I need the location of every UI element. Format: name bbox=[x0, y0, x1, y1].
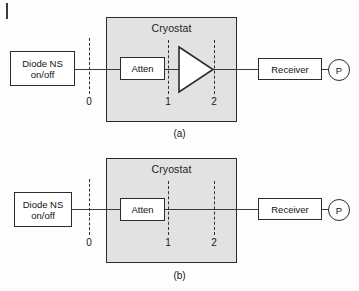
noise-source-line2-b: on/off bbox=[31, 210, 55, 221]
reference-plane-1-line-b bbox=[168, 181, 169, 235]
reference-plane-0-label-a: 0 bbox=[82, 96, 96, 107]
receiver-label-b: Receiver bbox=[271, 204, 309, 215]
power-meter-label-a: P bbox=[336, 65, 342, 76]
attenuator-label-a: Atten bbox=[131, 63, 153, 74]
reference-plane-1-label-b: 1 bbox=[161, 237, 175, 248]
reference-plane-0-line-a bbox=[89, 38, 90, 94]
reference-plane-1-line-a bbox=[168, 40, 169, 94]
attenuator-box-b[interactable]: Atten bbox=[120, 198, 165, 221]
figure-caption-b: (b) bbox=[0, 270, 359, 281]
receiver-label-a: Receiver bbox=[271, 64, 309, 75]
cryostat-label-b: Cryostat bbox=[106, 163, 237, 175]
power-meter-b[interactable]: P bbox=[328, 199, 350, 221]
wire-source-to-atten-b bbox=[72, 209, 120, 210]
wire-source-to-atten-a bbox=[75, 69, 120, 70]
amplifier-triangle-a bbox=[177, 45, 215, 94]
attenuator-label-b: Atten bbox=[131, 204, 153, 215]
noise-source-line2-a: on/off bbox=[31, 69, 55, 80]
power-meter-a[interactable]: P bbox=[328, 59, 350, 81]
receiver-box-b[interactable]: Receiver bbox=[258, 198, 322, 220]
wire-atten-to-receiver-b bbox=[165, 209, 258, 210]
figure-caption-a: (a) bbox=[0, 128, 359, 139]
diagram-b: Cryostat Diode NS on/off Atten Receiver … bbox=[0, 146, 359, 291]
power-meter-label-b: P bbox=[336, 205, 342, 216]
noise-source-line1-a: Diode NS bbox=[22, 58, 63, 69]
reference-plane-2-label-a: 2 bbox=[207, 96, 221, 107]
reference-plane-1-label-a: 1 bbox=[161, 96, 175, 107]
reference-plane-0-line-b bbox=[89, 179, 90, 235]
noise-source-box-a[interactable]: Diode NS on/off bbox=[10, 51, 75, 86]
reference-plane-2-line-b bbox=[214, 181, 215, 235]
attenuator-box-a[interactable]: Atten bbox=[120, 57, 165, 80]
reference-plane-2-line-a bbox=[214, 40, 215, 94]
noise-source-line1-b: Diode NS bbox=[23, 199, 64, 210]
diagram-a: Cryostat Diode NS on/off Atten Receiver … bbox=[0, 0, 359, 146]
noise-source-box-b[interactable]: Diode NS on/off bbox=[14, 192, 72, 227]
reference-plane-0-label-b: 0 bbox=[82, 237, 96, 248]
receiver-box-a[interactable]: Receiver bbox=[258, 58, 322, 80]
cryostat-label-a: Cryostat bbox=[106, 22, 237, 34]
reference-plane-2-label-b: 2 bbox=[207, 237, 221, 248]
wire-amp-to-receiver-a bbox=[211, 69, 258, 70]
